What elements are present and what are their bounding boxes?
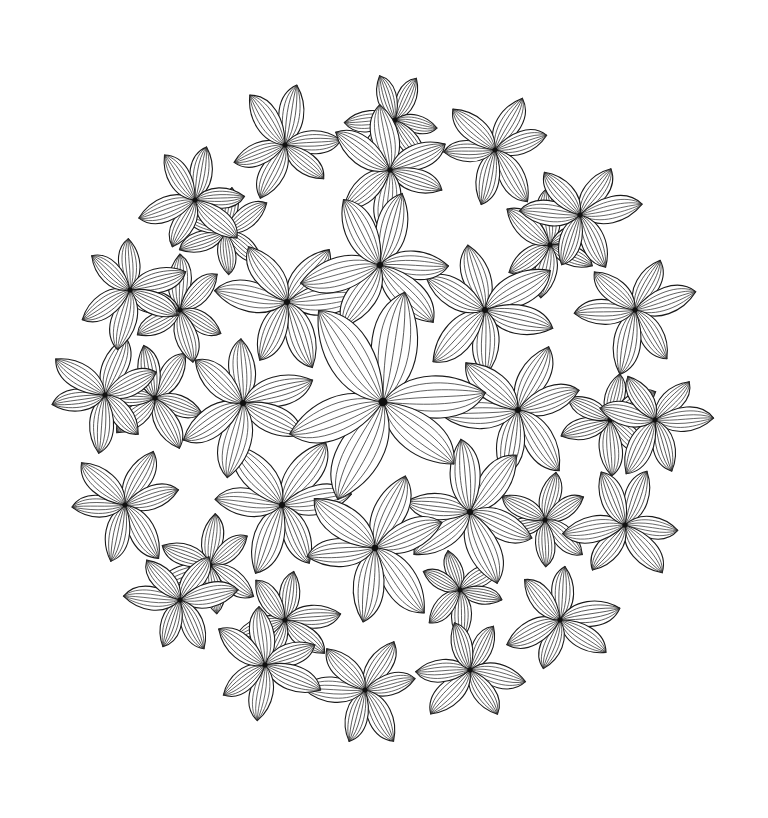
floral-mandala-illustration [0,0,768,818]
flower-center [178,308,183,313]
flower [496,557,630,681]
flower-center [387,167,392,172]
flower-center [482,307,488,313]
flower-center [458,588,463,593]
flower [222,74,353,213]
